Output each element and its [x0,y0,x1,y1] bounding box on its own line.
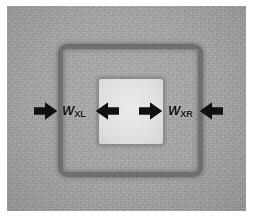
label-w-xr-subscript: XR [180,109,193,119]
label-w-xl-subscript: XL [74,109,86,119]
arrow-outer-left-icon [34,101,58,121]
label-w-xl-symbol: W [62,103,74,118]
arrow-inner-right-icon [139,101,163,121]
arrow-outer-right-icon [199,101,223,121]
arrow-inner-left-icon [95,101,119,121]
label-w-xl: WXL [62,104,86,117]
label-w-xr-symbol: W [168,103,180,118]
figure-root: WXL WXR [0,0,258,224]
label-w-xr: WXR [168,104,193,117]
